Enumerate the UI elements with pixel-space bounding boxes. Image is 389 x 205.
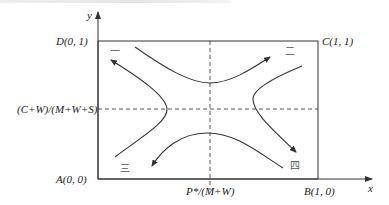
region-label-three: 三 <box>120 163 130 174</box>
trajectory-bottom <box>152 133 283 168</box>
corner-d-label: D(0, 1) <box>55 35 88 48</box>
region-label-one: 一 <box>110 46 120 57</box>
phase-diagram: y x D(0, 1) C(1, 1) A(0, 0) B(1, 0) (C+W… <box>0 0 389 205</box>
x-threshold-label: P*/(M+W) <box>185 185 235 198</box>
trajectory-left <box>111 60 167 157</box>
y-axis-label: y <box>86 9 92 21</box>
region-label-two: 二 <box>285 46 295 57</box>
unit-square <box>98 41 318 179</box>
region-label-four: 四 <box>290 160 300 171</box>
x-axis-label: x <box>367 182 373 194</box>
corner-c-label: C(1, 1) <box>322 35 354 48</box>
corner-a-label: A(0, 0) <box>55 173 87 186</box>
corner-b-label: B(1, 0) <box>304 185 335 198</box>
trajectory-top <box>135 47 270 83</box>
y-threshold-label: (C+W)/(M+W+S) <box>17 103 98 116</box>
